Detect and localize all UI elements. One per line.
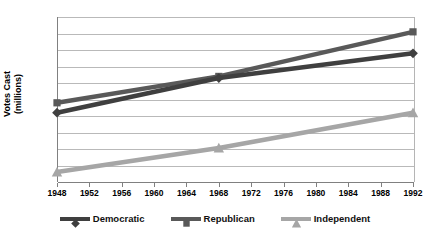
chart-legend: Democratic Republican Independent bbox=[0, 209, 430, 227]
line-chart: Votes Cast (millions) 051015202530354045… bbox=[0, 0, 430, 230]
data-point-marker bbox=[53, 99, 60, 106]
data-point-marker bbox=[52, 108, 62, 118]
series-layer bbox=[0, 0, 430, 230]
legend-item-independent[interactable]: Independent bbox=[281, 213, 370, 224]
data-point-marker bbox=[409, 28, 416, 35]
legend-swatch-independent bbox=[281, 213, 311, 224]
legend-label-independent: Independent bbox=[314, 213, 370, 224]
series-line-independent bbox=[57, 113, 413, 172]
legend-swatch-republican bbox=[171, 213, 201, 224]
data-point-marker bbox=[408, 48, 418, 58]
legend-marker-triangle bbox=[292, 219, 301, 228]
series-line-republican bbox=[57, 32, 413, 103]
legend-label-republican: Republican bbox=[204, 213, 255, 224]
legend-item-republican[interactable]: Republican bbox=[171, 213, 255, 224]
data-point-marker bbox=[71, 219, 80, 228]
legend-item-democratic[interactable]: Democratic bbox=[60, 213, 145, 224]
data-point-marker bbox=[292, 219, 301, 227]
data-point-marker bbox=[183, 220, 189, 226]
legend-swatch-democratic bbox=[60, 213, 90, 224]
legend-label-democratic: Democratic bbox=[93, 213, 145, 224]
series-line-democratic bbox=[57, 53, 413, 112]
legend-marker-square bbox=[182, 219, 191, 228]
legend-marker-diamond bbox=[71, 219, 80, 228]
